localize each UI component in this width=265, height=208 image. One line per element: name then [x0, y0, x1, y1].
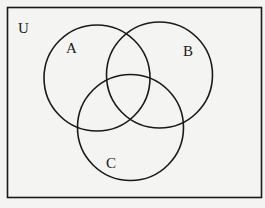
- venn-diagram: U A B C: [0, 0, 265, 208]
- set-b-label: B: [183, 43, 193, 59]
- set-c-label: C: [106, 155, 116, 171]
- universe-box: [8, 8, 262, 198]
- set-a-circle: [44, 25, 150, 131]
- set-a-label: A: [66, 40, 77, 56]
- universe-label: U: [18, 20, 29, 36]
